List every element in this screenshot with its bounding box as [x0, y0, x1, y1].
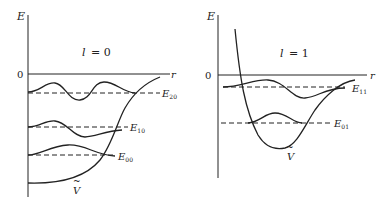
- left-wavefunction-10: [28, 121, 122, 137]
- left-r-axis-label: r: [171, 69, 177, 80]
- right-label-e11: E11: [351, 83, 367, 95]
- right-l-label: l: [280, 47, 284, 60]
- left-wavefunction-00: [28, 145, 115, 156]
- left-label-e20: E20: [161, 88, 177, 100]
- right-r-axis-label: r: [370, 70, 376, 81]
- left-e-axis-label: E: [16, 10, 25, 23]
- left-label-e00: E00: [117, 151, 133, 163]
- right-zero-label: 0: [205, 70, 211, 81]
- left-label-e10: E10: [129, 122, 145, 134]
- right-label-e01: E01: [333, 118, 349, 130]
- right-l-value: = 1: [289, 47, 309, 60]
- energy-level-diagram: E r 0 l = 0 ~ V E20 E10 E00 E r 0 l = 1 …: [0, 0, 390, 202]
- right-potential-label: V: [287, 151, 296, 162]
- left-wavefunction-20: [28, 82, 135, 100]
- left-potential-label: V: [73, 185, 82, 196]
- left-zero-label: 0: [17, 69, 23, 80]
- right-e-axis-label: E: [206, 10, 215, 23]
- right-panel-l1: E r 0 l = 1 ~ V E11 E01: [205, 10, 376, 178]
- left-l-value: = 0: [91, 46, 111, 59]
- right-wavefunction-01: [248, 113, 302, 123]
- left-l-label: l: [82, 46, 86, 59]
- left-panel-l0: E r 0 l = 0 ~ V E20 E10 E00: [16, 10, 177, 197]
